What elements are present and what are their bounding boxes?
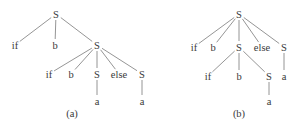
- tree-a-edges: [20, 18, 142, 95]
- tree-edge: [212, 51, 234, 72]
- tree-node-terminal: a: [282, 71, 287, 82]
- tree-node-terminal: a: [140, 96, 145, 107]
- tree-node-terminal: b: [210, 42, 215, 53]
- tree-edge: [20, 18, 51, 42]
- tree-b-caption: (b): [233, 108, 246, 120]
- tree-node-terminal: if: [205, 71, 212, 82]
- tree-a-caption: (a): [66, 108, 78, 120]
- tree-node-nonterminal: S: [236, 42, 242, 53]
- tree-edge: [243, 51, 264, 72]
- tree-node-terminal: else: [111, 69, 128, 80]
- tree-node-terminal: if: [46, 69, 53, 80]
- parse-tree-a: SifbSifbSelseSaa (a): [12, 9, 145, 120]
- tree-node-terminal: a: [267, 96, 272, 107]
- parse-tree-figure: SifbSifbSelseSaa (a) SifbSelseSifbSaa (b…: [0, 0, 301, 129]
- tree-node-terminal: if: [12, 40, 19, 51]
- tree-edge: [101, 50, 116, 69]
- tree-node-terminal: b: [68, 69, 73, 80]
- tree-node-nonterminal: S: [139, 69, 145, 80]
- tree-node-terminal: a: [95, 96, 100, 107]
- tree-node-nonterminal: S: [53, 9, 59, 20]
- tree-node-terminal: b: [236, 71, 241, 82]
- tree-node-nonterminal: S: [94, 69, 100, 80]
- tree-edge: [61, 18, 92, 42]
- tree-node-nonterminal: S: [236, 9, 242, 20]
- tree-node-nonterminal: S: [266, 71, 272, 82]
- tree-b-edges: [199, 18, 284, 96]
- tree-node-nonterminal: S: [281, 42, 287, 53]
- tree-edge: [55, 20, 56, 39]
- tree-node-terminal: else: [254, 42, 271, 53]
- tree-node-terminal: b: [52, 40, 57, 51]
- tree-edge: [199, 18, 234, 44]
- tree-edge: [102, 48, 137, 70]
- tree-edge: [217, 19, 236, 43]
- tree-node-terminal: if: [191, 42, 198, 53]
- tree-a-nodes: SifbSifbSelseSaa: [12, 9, 145, 107]
- tree-edge: [54, 48, 92, 71]
- tree-edge: [244, 18, 279, 44]
- parse-tree-b: SifbSelseSifbSaa (b): [191, 9, 287, 120]
- tree-node-nonterminal: S: [94, 40, 100, 51]
